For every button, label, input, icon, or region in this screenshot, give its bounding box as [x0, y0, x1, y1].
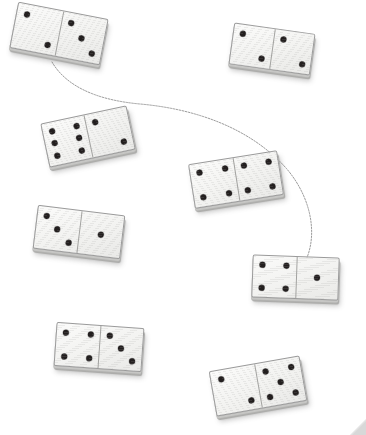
pip	[221, 165, 228, 172]
domino-top-right[interactable]	[228, 22, 315, 75]
pip	[225, 190, 232, 197]
pip	[277, 379, 284, 386]
domino-top-left-right-half	[55, 11, 108, 64]
pip	[54, 152, 61, 159]
pip	[61, 353, 67, 359]
domino-top-right-right-half	[269, 29, 314, 74]
domino-upper-left-right-half	[84, 107, 135, 158]
domino-middle-left-left-half	[34, 206, 82, 253]
domino-upper-left[interactable]	[40, 105, 135, 167]
pip	[245, 187, 252, 194]
pip	[258, 56, 265, 63]
pip	[283, 286, 289, 292]
pip	[217, 376, 224, 383]
pip	[92, 119, 99, 126]
domino-bottom-left[interactable]	[54, 322, 145, 372]
pip	[78, 147, 85, 154]
pip	[75, 135, 82, 142]
pip	[269, 183, 276, 190]
pip	[267, 393, 274, 400]
domino-bottom-right-right-half	[254, 357, 306, 408]
domino-center[interactable]	[188, 150, 284, 209]
pip	[63, 329, 69, 335]
pip	[49, 128, 56, 135]
domino-center-left-half	[189, 158, 239, 207]
pip	[97, 231, 104, 238]
pip	[44, 41, 51, 48]
pip	[241, 162, 248, 169]
pip	[287, 364, 294, 371]
pip	[120, 138, 127, 145]
pip	[51, 140, 58, 147]
pip	[292, 389, 299, 396]
domino-middle-right-left-half	[252, 256, 296, 298]
pip	[259, 285, 265, 291]
pip	[107, 333, 113, 339]
pip	[247, 397, 254, 404]
pip	[259, 262, 265, 268]
domino-top-left[interactable]	[9, 2, 108, 66]
pip	[280, 36, 287, 43]
pip	[314, 275, 320, 281]
pip	[54, 226, 61, 233]
domino-bottom-left-right-half	[98, 326, 144, 371]
pip	[284, 262, 290, 268]
domino-bottom-right[interactable]	[209, 355, 308, 416]
pip	[298, 61, 305, 68]
pip	[65, 239, 72, 246]
pip	[200, 194, 207, 201]
pip	[118, 345, 124, 351]
domino-center-right-half	[233, 151, 283, 200]
pip	[87, 331, 93, 337]
domino-bottom-left-left-half	[55, 323, 101, 368]
pip	[73, 123, 80, 130]
domino-scene	[0, 0, 366, 435]
pip	[68, 19, 75, 26]
pip	[196, 169, 203, 176]
pip	[78, 34, 85, 41]
pip	[129, 358, 135, 364]
pip	[23, 10, 30, 17]
pip	[86, 355, 92, 361]
pip	[265, 158, 272, 165]
pip	[44, 213, 51, 220]
pip	[262, 368, 269, 375]
resize-handle-icon	[346, 417, 366, 435]
domino-middle-left-right-half	[76, 211, 124, 258]
domino-middle-left[interactable]	[33, 205, 126, 259]
pip	[88, 50, 95, 57]
domino-top-right-left-half	[230, 24, 275, 69]
domino-layer	[0, 0, 366, 435]
domino-middle-right-right-half	[295, 257, 339, 299]
domino-bottom-right-left-half	[210, 364, 262, 415]
domino-middle-right[interactable]	[251, 254, 339, 300]
pip	[239, 30, 246, 37]
